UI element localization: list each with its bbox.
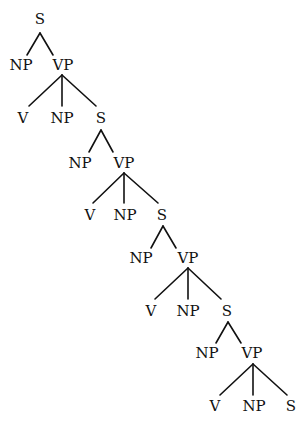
tree-edge [228,322,241,343]
tree-node-vp: VP [241,344,263,362]
tree-edge [89,130,101,152]
tree-node-vp: VP [52,56,74,74]
tree-node-vp: VP [177,249,199,267]
tree-edge [216,322,228,343]
tree-node-np: NP [9,56,32,74]
tree-node-np: NP [176,302,199,320]
tree-node-s: S [222,302,232,320]
tree-node-s: S [286,397,296,415]
tree-node-s: S [35,10,45,28]
tree-node-s: S [96,109,106,127]
tree-edge [253,364,287,395]
tree-node-v: V [209,397,222,415]
tree-nodes: SNPVPVNPSNPVPVNPSNPVPVNPSNPVPVNPS [9,10,296,415]
tree-edge [62,75,96,106]
tree-node-s: S [157,206,167,224]
tree-node-np: NP [68,154,91,172]
tree-edge [93,173,124,203]
tree-node-np: NP [113,206,136,224]
tree-node-v: V [17,109,30,127]
tree-edge [124,173,158,203]
tree-node-np: NP [129,249,152,267]
tree-edge [163,226,176,248]
tree-edge [27,33,40,55]
tree-edge [188,268,221,299]
tree-node-np: NP [50,109,73,127]
tree-edge [29,75,62,106]
tree-node-np: NP [195,344,218,362]
tree-node-vp: VP [113,154,135,172]
tree-edge [101,130,113,152]
tree-edge [155,268,188,299]
syntax-tree-diagram: SNPVPVNPSNPVPVNPSNPVPVNPSNPVPVNPS [0,0,300,423]
tree-edge [220,364,253,395]
tree-node-np: NP [242,397,265,415]
tree-node-v: V [84,206,97,224]
tree-edge [151,226,163,248]
tree-edge [40,33,53,55]
tree-node-v: V [145,302,158,320]
